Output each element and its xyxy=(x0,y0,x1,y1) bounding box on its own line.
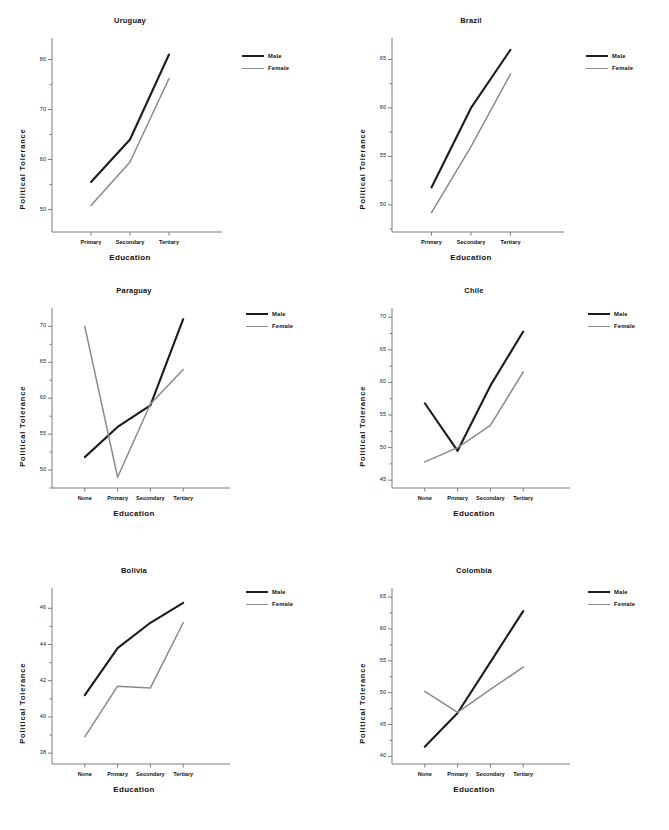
y-tick-label: 60 xyxy=(362,104,386,110)
x-axis-label: Education xyxy=(392,785,556,794)
legend-item-female[interactable]: Female xyxy=(246,600,293,608)
y-tick-label: 38 xyxy=(22,749,46,755)
y-tick-label: 50 xyxy=(362,444,386,450)
x-axis-label: Education xyxy=(52,253,208,262)
chart-panel-uruguay: UruguayPolitical ToleranceEducation50607… xyxy=(0,0,334,276)
legend-label-female: Female xyxy=(612,65,633,71)
legend-label-female: Female xyxy=(268,65,289,71)
y-axis-label: Political Tolerance xyxy=(18,65,27,209)
legend-item-male[interactable]: Male xyxy=(242,52,289,60)
legend-item-female[interactable]: Female xyxy=(586,64,633,72)
y-tick-label: 70 xyxy=(362,313,386,319)
y-tick-label: 44 xyxy=(22,641,46,647)
legend-item-female[interactable]: Female xyxy=(246,322,293,330)
y-tick-label: 60 xyxy=(22,156,46,162)
legend-item-female[interactable]: Female xyxy=(242,64,289,72)
legend: MaleFemale xyxy=(246,588,293,612)
x-tick-label-tertiary: Tertiary xyxy=(497,495,549,501)
legend-label-female: Female xyxy=(272,601,293,607)
legend: MaleFemale xyxy=(588,310,635,334)
legend-label-male: Male xyxy=(268,53,282,59)
legend: MaleFemale xyxy=(586,52,633,76)
legend-swatch-female-icon xyxy=(246,604,268,605)
chart-panel-bolivia: BoliviaPolitical ToleranceEducation38404… xyxy=(0,552,334,830)
legend-item-male[interactable]: Male xyxy=(586,52,633,60)
legend-item-male[interactable]: Male xyxy=(588,588,635,596)
x-axis-label: Education xyxy=(52,509,216,518)
y-tick-label: 40 xyxy=(22,713,46,719)
legend-label-female: Female xyxy=(614,601,635,607)
legend-label-male: Male xyxy=(612,53,626,59)
legend-swatch-female-icon xyxy=(246,326,268,327)
y-tick-label: 45 xyxy=(362,476,386,482)
legend-label-male: Male xyxy=(272,589,286,595)
series-line-male xyxy=(85,603,183,695)
y-tick-label: 55 xyxy=(22,430,46,436)
legend-item-male[interactable]: Male xyxy=(588,310,635,318)
series-line-male xyxy=(425,611,523,747)
y-axis-label: Political Tolerance xyxy=(358,65,367,209)
y-tick-label: 42 xyxy=(22,677,46,683)
y-tick-label: 55 xyxy=(362,411,386,417)
legend-swatch-male-icon xyxy=(588,313,610,315)
series-line-female xyxy=(85,326,183,477)
x-tick-label-tertiary: Tertiary xyxy=(157,495,209,501)
legend-swatch-male-icon xyxy=(588,591,610,593)
y-tick-label: 50 xyxy=(22,466,46,472)
legend-item-female[interactable]: Female xyxy=(588,322,635,330)
plot-area-brazil xyxy=(334,0,669,276)
series-line-male xyxy=(432,50,511,188)
x-tick-label-tertiary: Tertiary xyxy=(143,239,195,245)
chart-title: Paraguay xyxy=(52,286,216,295)
legend-item-male[interactable]: Male xyxy=(246,310,293,318)
y-tick-label: 50 xyxy=(22,206,46,212)
y-tick-label: 65 xyxy=(362,55,386,61)
series-line-female xyxy=(432,74,511,213)
series-line-female xyxy=(91,79,169,206)
x-axis-label: Education xyxy=(52,785,216,794)
y-tick-label: 55 xyxy=(362,152,386,158)
y-tick-label: 60 xyxy=(22,394,46,400)
legend-swatch-male-icon xyxy=(242,55,264,57)
legend-item-male[interactable]: Male xyxy=(246,588,293,596)
chart-title: Brazil xyxy=(392,16,550,25)
series-line-male xyxy=(85,319,183,457)
legend-swatch-female-icon xyxy=(588,326,610,327)
legend-label-female: Female xyxy=(272,323,293,329)
chart-title: Colombia xyxy=(392,566,556,575)
chart-panel-chile: ChilePolitical ToleranceEducation4550556… xyxy=(334,276,669,552)
legend: MaleFemale xyxy=(246,310,293,334)
x-tick-label-tertiary: Tertiary xyxy=(497,771,549,777)
legend-swatch-male-icon xyxy=(246,313,268,315)
legend: MaleFemale xyxy=(588,588,635,612)
chart-title: Chile xyxy=(392,286,556,295)
legend-swatch-female-icon xyxy=(588,604,610,605)
y-tick-label: 50 xyxy=(362,201,386,207)
charts-grid: UruguayPolitical ToleranceEducation50607… xyxy=(0,0,669,830)
y-tick-label: 80 xyxy=(22,56,46,62)
legend-label-male: Male xyxy=(614,589,628,595)
plot-area-uruguay xyxy=(0,0,334,276)
y-tick-label: 46 xyxy=(22,604,46,610)
chart-title: Uruguay xyxy=(52,16,208,25)
y-tick-label: 70 xyxy=(22,322,46,328)
y-tick-label: 65 xyxy=(22,358,46,364)
legend-swatch-female-icon xyxy=(242,68,264,69)
legend-swatch-male-icon xyxy=(246,591,268,593)
y-tick-label: 55 xyxy=(362,657,386,663)
legend-label-male: Male xyxy=(614,311,628,317)
y-tick-label: 50 xyxy=(362,689,386,695)
legend-swatch-female-icon xyxy=(586,68,608,69)
legend-label-female: Female xyxy=(614,323,635,329)
legend-swatch-male-icon xyxy=(586,55,608,57)
legend: MaleFemale xyxy=(242,52,289,76)
chart-panel-paraguay: ParaguayPolitical ToleranceEducation5055… xyxy=(0,276,334,552)
chart-panel-colombia: ColombiaPolitical ToleranceEducation4045… xyxy=(334,552,669,830)
legend-item-female[interactable]: Female xyxy=(588,600,635,608)
x-axis-label: Education xyxy=(392,253,550,262)
x-tick-label-tertiary: Tertiary xyxy=(157,771,209,777)
series-line-male xyxy=(425,332,523,451)
x-tick-label-tertiary: Tertiary xyxy=(485,239,537,245)
y-tick-label: 65 xyxy=(362,346,386,352)
y-tick-label: 70 xyxy=(22,106,46,112)
